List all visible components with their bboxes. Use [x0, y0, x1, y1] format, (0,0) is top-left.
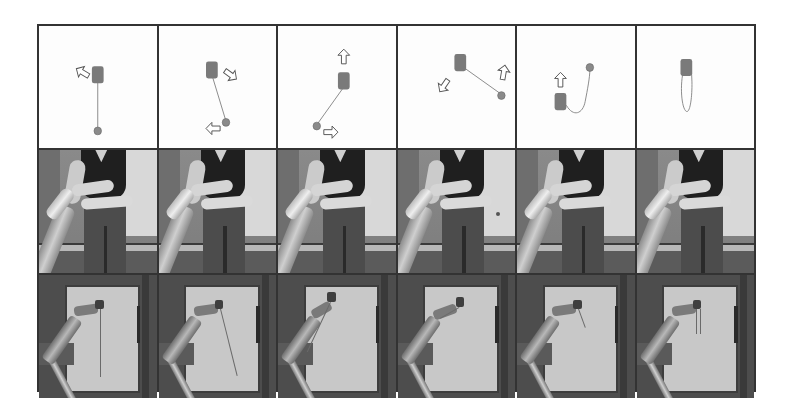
figure-grid	[37, 24, 756, 392]
yoyo-diagram	[278, 26, 396, 148]
yoyo-diagram	[398, 26, 516, 148]
robot-execution-photo-4	[398, 275, 516, 398]
diagram-panel-6	[637, 26, 755, 148]
cylinder-icon	[680, 59, 692, 76]
diagram-panel-2	[159, 26, 277, 148]
robot-execution-photo-6	[637, 275, 755, 398]
cylinder-icon	[206, 61, 218, 78]
robot-execution-photo-5	[517, 275, 635, 398]
ball-icon	[94, 127, 102, 135]
human-demo-photo-2	[159, 150, 277, 273]
ball	[496, 212, 500, 216]
yoyo-diagram	[159, 26, 277, 148]
cylinder-icon	[338, 72, 350, 89]
robot-end-effector	[215, 300, 223, 310]
arrow-up-left-icon	[73, 63, 91, 81]
arrow-down-left-icon	[434, 76, 452, 95]
ball-icon	[497, 92, 505, 100]
robot-end-effector	[456, 297, 464, 307]
arrow-down-right-icon	[221, 66, 239, 84]
yoyo-diagram	[39, 26, 157, 148]
yoyo-diagram	[517, 26, 635, 148]
cylinder-icon	[454, 54, 466, 71]
human-demo-photo-5	[517, 150, 635, 273]
arrow-up-icon	[338, 49, 350, 64]
human-demo-photo-4	[398, 150, 516, 273]
human-demo-photo-6	[637, 150, 755, 273]
diagram-panel-3	[278, 26, 396, 148]
human-demo-photo-3	[278, 150, 396, 273]
yoyo-diagram	[637, 26, 755, 148]
robot-end-effector	[95, 300, 103, 310]
cylinder-icon	[555, 93, 567, 110]
cylinder-icon	[92, 66, 104, 83]
robot-end-effector	[327, 292, 335, 302]
arrow-right-icon	[324, 126, 338, 138]
diagram-panel-1	[39, 26, 157, 148]
ball-icon	[313, 122, 321, 130]
diagram-panel-4	[398, 26, 516, 148]
diagram-panel-5	[517, 26, 635, 148]
robot-execution-photo-3	[278, 275, 396, 398]
arrow-up-icon	[496, 64, 510, 81]
arrow-up-icon	[555, 72, 567, 87]
arrow-left-icon	[206, 122, 220, 134]
robot-execution-photo-2	[159, 275, 277, 398]
human-demo-photo-1	[39, 150, 157, 273]
ball-icon	[222, 118, 230, 126]
robot-end-effector	[693, 300, 701, 310]
ball-icon	[586, 64, 594, 72]
robot-execution-photo-1	[39, 275, 157, 398]
